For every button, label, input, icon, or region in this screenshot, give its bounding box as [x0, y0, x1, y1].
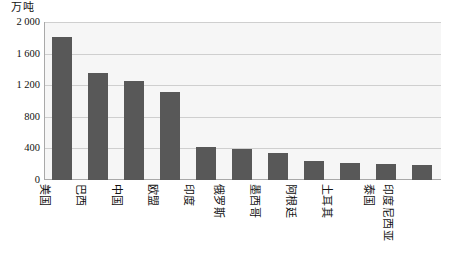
- x-axis-label: 欧盟: [147, 184, 159, 207]
- x-axis-label: 中国: [111, 184, 123, 207]
- x-axis-label: 美国: [39, 184, 51, 207]
- x-axis-label-slot: 印度尼西亚: [404, 182, 440, 254]
- bar-slot: [188, 22, 224, 180]
- x-axis-label: 墨西哥: [249, 184, 261, 218]
- y-axis-tick: 2 000: [0, 16, 40, 27]
- bar: [160, 92, 180, 180]
- x-axis-label: 俄罗斯: [213, 184, 225, 218]
- bar: [232, 149, 252, 180]
- bar: [88, 73, 108, 180]
- x-axis-label: 印度: [183, 184, 195, 207]
- bar-slot: [80, 22, 116, 180]
- bar: [376, 164, 396, 180]
- bar-series: [44, 22, 440, 180]
- x-axis-label: 泰国: [363, 184, 375, 207]
- bar-slot: [332, 22, 368, 180]
- bar: [52, 37, 72, 180]
- bar-slot: [368, 22, 404, 180]
- bar: [124, 81, 144, 180]
- bar: [196, 147, 216, 180]
- bar-slot: [116, 22, 152, 180]
- y-axis-unit-label: 万吨: [11, 1, 34, 14]
- bar: [304, 161, 324, 180]
- bar-slot: [260, 22, 296, 180]
- bar-slot: [224, 22, 260, 180]
- y-axis-tick: 1 200: [0, 79, 40, 90]
- y-axis-tick: 800: [0, 111, 40, 122]
- bar: [340, 163, 360, 180]
- x-axis-label: 阿根廷: [285, 184, 297, 218]
- y-axis-tick: 1 600: [0, 48, 40, 59]
- x-axis-category-labels: 美国巴西中国欧盟印度俄罗斯墨西哥阿根廷土耳其泰国印度尼西亚: [44, 182, 440, 254]
- bar: [412, 165, 432, 180]
- x-axis-label: 巴西: [75, 184, 87, 207]
- bar: [268, 153, 288, 180]
- bar-slot: [404, 22, 440, 180]
- bar-slot: [152, 22, 188, 180]
- x-axis-label: 印度尼西亚: [382, 184, 394, 241]
- x-axis-label: 土耳其: [321, 184, 333, 218]
- bar-slot: [296, 22, 332, 180]
- bar-chart: 万吨 04008001 2001 6002 000 美国巴西中国欧盟印度俄罗斯墨…: [0, 0, 453, 254]
- bar-slot: [44, 22, 80, 180]
- y-axis-tick: 400: [0, 142, 40, 153]
- y-axis-tick-labels: 04008001 2001 6002 000: [0, 22, 40, 180]
- y-axis-tick: 0: [0, 174, 40, 185]
